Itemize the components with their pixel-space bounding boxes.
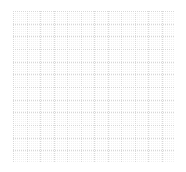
- dotted-grid-area: [13, 11, 175, 163]
- grid-major-lines: [13, 11, 175, 163]
- screenshot-canvas: [0, 0, 186, 172]
